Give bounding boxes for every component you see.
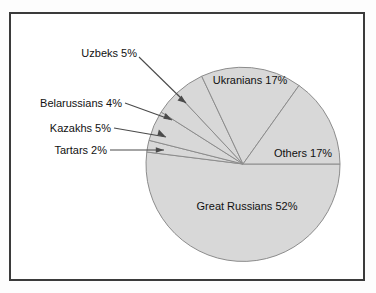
pie-chart-svg: Uzbeks 5% Belarussians 4% Kazakhs 5% Tar… — [0, 0, 376, 293]
pie-label-others: Others 17% — [274, 147, 332, 159]
pie-chart-figure: Uzbeks 5% Belarussians 4% Kazakhs 5% Tar… — [0, 0, 376, 293]
pie-label-tartars: Tartars 2% — [54, 144, 107, 156]
pie-label-uzbeks: Uzbeks 5% — [81, 47, 137, 59]
pie-label-great-russians: Great Russians 52% — [197, 200, 298, 212]
leader-line-uzbeks — [139, 57, 186, 103]
pie-label-belarussians: Belarussians 4% — [40, 97, 122, 109]
pie-slices — [146, 67, 340, 261]
pie-label-ukranians: Ukranians 17% — [213, 74, 288, 86]
pie-label-kazakhs: Kazakhs 5% — [50, 122, 111, 134]
